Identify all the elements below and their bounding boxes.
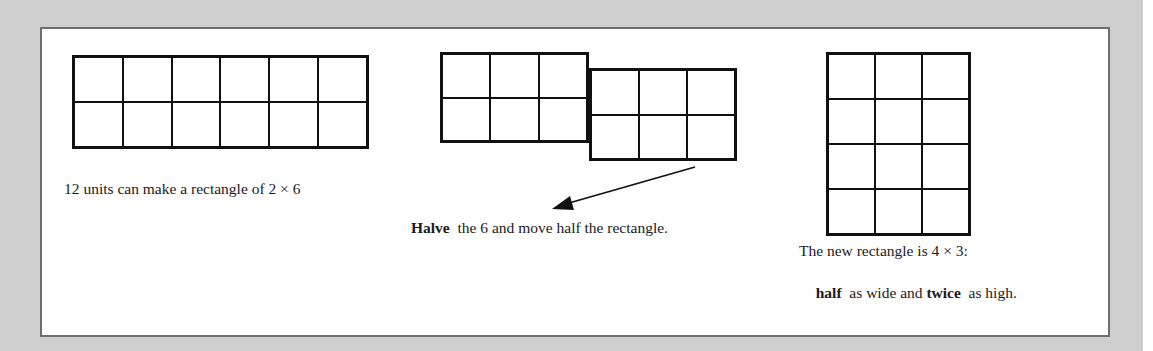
grid-4x3 bbox=[826, 52, 971, 236]
caption-twice-bold: twice bbox=[926, 284, 960, 301]
caption-halve: Halve the 6 and move half the rectangle. bbox=[411, 219, 668, 237]
caption-half-bold: half bbox=[816, 284, 842, 301]
caption-halve-bold: Halve bbox=[411, 219, 450, 236]
caption-result-line1: The new rectangle is 4 × 3: bbox=[799, 242, 968, 260]
caption-mid: as wide and bbox=[842, 284, 927, 301]
caption-end: as high. bbox=[961, 284, 1017, 301]
caption-halve-rest: the 6 and move half the rectangle. bbox=[450, 219, 668, 236]
caption-result-line2: half as wide and twice as high. bbox=[808, 266, 1017, 302]
